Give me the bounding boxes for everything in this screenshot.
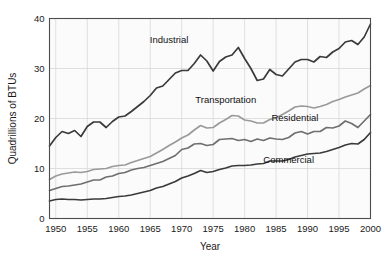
chart-figure: 0102030401950195519601965197019751980198… [0,0,387,264]
line-chart-svg: 0102030401950195519601965197019751980198… [0,0,387,264]
y-axis-title: Quadrillions of BTUs [7,73,18,165]
y-tick-label: 20 [34,113,45,124]
x-tick-label: 1960 [108,223,129,234]
y-tick-label: 0 [39,213,44,224]
x-tick-label: 1980 [234,223,255,234]
y-tick-label: 10 [34,163,45,174]
x-axis-title: Year [200,241,221,252]
series-label-residential: Residential [271,112,318,123]
x-tick-label: 1995 [328,223,349,234]
series-label-industrial: Industrial [150,34,189,45]
x-tick-label: 2000 [360,223,381,234]
series-label-commercial: Commercial [263,154,314,165]
x-tick-label: 1990 [297,223,318,234]
x-tick-label: 1965 [140,223,161,234]
y-tick-label: 40 [34,13,45,24]
x-tick-label: 1975 [203,223,224,234]
y-tick-label: 30 [34,63,45,74]
series-label-transportation: Transportation [195,94,256,105]
x-tick-label: 1950 [45,223,66,234]
x-tick-label: 1985 [266,223,287,234]
x-tick-label: 1955 [77,223,98,234]
x-tick-label: 1970 [171,223,192,234]
